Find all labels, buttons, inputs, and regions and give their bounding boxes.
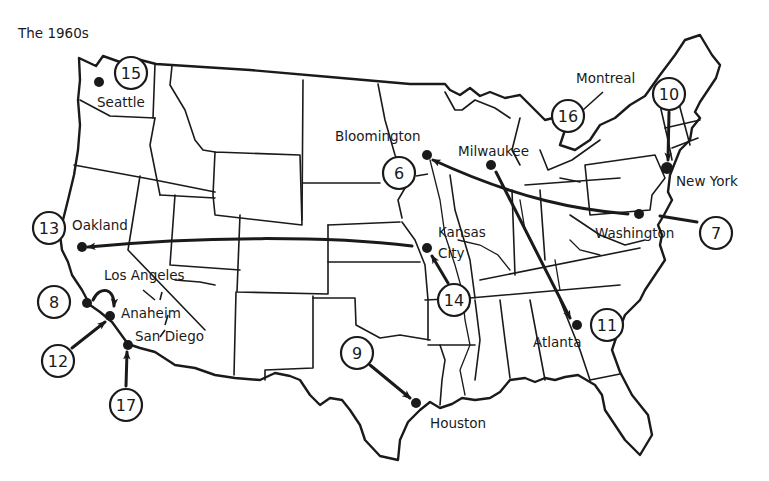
cities: Seattle Oakland Los Angeles Anaheim San … bbox=[72, 70, 738, 431]
city-label: Milwaukee bbox=[458, 143, 529, 159]
city-dot-los-angeles bbox=[82, 298, 92, 308]
svg-text:6: 6 bbox=[394, 164, 404, 183]
city-dot bbox=[411, 398, 421, 408]
city-dot bbox=[634, 209, 644, 219]
city-label: San Diego bbox=[135, 328, 204, 344]
rivers bbox=[430, 160, 600, 395]
route-17-to-sandiego bbox=[126, 352, 127, 386]
city-label: Anaheim bbox=[121, 305, 181, 321]
city-label: Houston bbox=[430, 415, 486, 431]
svg-text:8: 8 bbox=[49, 293, 59, 312]
marker-11: 11 bbox=[591, 309, 623, 341]
marker-16: 16 bbox=[552, 100, 584, 132]
us-relocation-map: The 1960s bbox=[0, 0, 769, 481]
city-dot bbox=[422, 150, 432, 160]
svg-text:13: 13 bbox=[39, 219, 59, 238]
svg-text:15: 15 bbox=[121, 64, 141, 83]
city-new-york: New York bbox=[661, 162, 738, 189]
svg-text:9: 9 bbox=[352, 344, 362, 363]
map-title: The 1960s bbox=[17, 25, 89, 41]
city-los-angeles: Los Angeles bbox=[104, 267, 185, 283]
city-dot bbox=[77, 242, 87, 252]
city-houston: Houston bbox=[411, 398, 486, 431]
city-dot bbox=[123, 340, 133, 350]
city-dot bbox=[94, 77, 104, 87]
city-label: Montreal bbox=[576, 70, 635, 86]
marker-8: 8 bbox=[38, 286, 70, 318]
svg-text:16: 16 bbox=[558, 107, 578, 126]
us-outline bbox=[60, 35, 720, 460]
svg-text:12: 12 bbox=[48, 352, 68, 371]
svg-text:17: 17 bbox=[116, 396, 136, 415]
city-dot bbox=[661, 162, 673, 174]
city-label-line2: City bbox=[438, 245, 464, 261]
marker-9: 9 bbox=[341, 337, 373, 369]
city-dot bbox=[422, 243, 432, 253]
svg-text:14: 14 bbox=[444, 291, 464, 310]
city-label: Washington bbox=[595, 225, 674, 241]
route-7-segment bbox=[660, 216, 697, 222]
route-kansascity-to-oakland bbox=[88, 239, 412, 247]
route-9-to-houston bbox=[370, 365, 410, 398]
svg-text:11: 11 bbox=[597, 316, 617, 335]
marker-17: 17 bbox=[110, 389, 142, 421]
city-dot bbox=[572, 320, 582, 330]
marker-13: 13 bbox=[33, 212, 65, 244]
city-dot bbox=[105, 311, 115, 321]
city-dot bbox=[486, 160, 496, 170]
route-washington-to-bloomington bbox=[433, 160, 628, 214]
svg-text:10: 10 bbox=[659, 85, 679, 104]
marker-10: 10 bbox=[653, 78, 685, 110]
city-montreal: Montreal bbox=[576, 70, 635, 86]
marker-12: 12 bbox=[42, 345, 74, 377]
marker-15: 15 bbox=[115, 57, 147, 89]
city-label: New York bbox=[676, 173, 738, 189]
svg-text:7: 7 bbox=[711, 224, 721, 243]
route-12-to-anaheim bbox=[72, 322, 105, 348]
route-milwaukee-to-atlanta bbox=[496, 172, 570, 318]
city-label: Los Angeles bbox=[104, 267, 185, 283]
route-10-to-newyork bbox=[668, 112, 669, 160]
city-bloomington: Bloomington bbox=[335, 128, 432, 160]
city-label: Atlanta bbox=[533, 334, 581, 350]
city-label: Seattle bbox=[97, 94, 145, 110]
route-la-to-anaheim bbox=[93, 290, 114, 306]
city-label: Bloomington bbox=[335, 128, 421, 144]
city-label: Oakland bbox=[72, 217, 128, 233]
city-atlanta: Atlanta bbox=[533, 320, 582, 350]
city-label-line1: Kansas bbox=[438, 224, 486, 240]
marker-7: 7 bbox=[700, 217, 732, 249]
city-milwaukee: Milwaukee bbox=[458, 143, 529, 170]
marker-6: 6 bbox=[383, 157, 415, 189]
marker-14: 14 bbox=[438, 284, 470, 316]
